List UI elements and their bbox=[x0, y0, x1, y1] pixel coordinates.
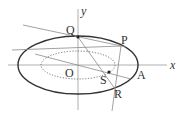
point-a-label: A bbox=[137, 68, 146, 82]
line-p-down bbox=[112, 46, 121, 111]
ellipse-diagram: x y O Q P S R A bbox=[0, 0, 188, 117]
point-q-label: Q bbox=[66, 23, 75, 37]
point-s-dot bbox=[107, 70, 110, 73]
x-axis-label: x bbox=[169, 58, 176, 72]
point-p-label: P bbox=[121, 33, 128, 47]
point-q-dot bbox=[76, 35, 79, 38]
origin-label: O bbox=[65, 66, 74, 80]
y-axis-label: y bbox=[80, 4, 87, 18]
point-s-label: S bbox=[100, 73, 107, 87]
point-r-label: R bbox=[114, 87, 122, 101]
